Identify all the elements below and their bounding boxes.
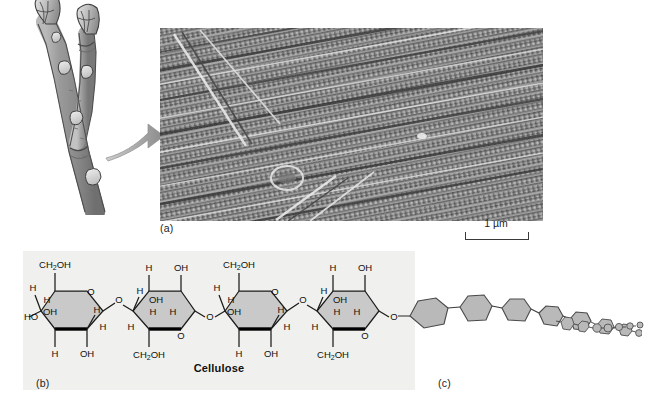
ring-1-c6-label: CH2OH (39, 259, 71, 271)
ring-3-h-bond-ul (219, 295, 225, 311)
ring-2-h-top: H (146, 262, 153, 273)
glycosidic-bond-3a (287, 303, 299, 311)
polymer-chain-tail (556, 305, 648, 341)
leaf-scar-3 (70, 111, 83, 125)
cellulose-caption: Cellulose (23, 362, 415, 374)
micrograph-texture (160, 28, 543, 221)
ring-3-inner-oh: OH (227, 306, 241, 317)
cellulose-micrograph (160, 28, 543, 221)
ring-1-h-right: H (94, 304, 101, 315)
scale-bar: 1 µm (463, 217, 529, 241)
ring-4-inner-h: H (334, 306, 341, 317)
panel-label-b: (b) (36, 377, 49, 389)
ring-2-o-label: O (177, 330, 184, 341)
ring-4-o-label: O (361, 330, 368, 341)
leaf-scar-1 (58, 61, 71, 75)
chain-bond-2 (492, 306, 502, 308)
ring-1-ho: HO (24, 311, 38, 322)
chain-bond-1 (448, 307, 460, 308)
ring-2-h-left: H (137, 285, 144, 296)
ring-4-h-right: H (354, 306, 361, 317)
ring-1-inner-oh: OH (43, 306, 57, 317)
ring-4-body (317, 291, 379, 329)
ring-3-h-right: H (278, 304, 285, 315)
twig-drawing (0, 0, 160, 215)
panel-label-a: (a) (160, 222, 173, 234)
ring-3-h-bottom: H (236, 348, 243, 359)
ring-4-inner-oh: OH (333, 294, 347, 305)
ring-1-inner-h: H (44, 294, 51, 305)
ring-4-oh-top: OH (358, 262, 372, 273)
ring-1-o-label: O (87, 286, 94, 297)
chain-unit-1 (410, 298, 448, 328)
glucose-ring-2: O H OH OH H H H CH2OH H (128, 262, 195, 361)
ring-1-h-right-lower: H (100, 321, 107, 332)
ring-2-c6-label: CH2OH (133, 349, 165, 361)
ring-3-h-ul: H (214, 282, 221, 293)
ring-1-h-ul: H (30, 282, 37, 293)
glycosidic-bond-3b (307, 305, 317, 311)
ring-4-h-left: H (321, 285, 328, 296)
glycosidic-bond-4a (379, 311, 389, 317)
glycosidic-o-4: O (390, 311, 397, 322)
ring-1-h-bond-ul (35, 295, 41, 311)
ring-1-h-bottom: H (52, 348, 59, 359)
ring-2-h-left-lower: H (128, 321, 135, 332)
ring-4-c6-label: CH2OH (317, 349, 349, 361)
leaf-scar-5 (52, 32, 62, 42)
glycosidic-bond-1a (103, 303, 115, 311)
figure-root: (a) 1 µm O CH2OH H HO H (0, 0, 648, 406)
glycosidic-o-2: O (206, 311, 213, 322)
magnify-arrow-icon (104, 118, 166, 164)
ring-3-oh-bottom: OH (264, 348, 278, 359)
glucose-ring-1: O CH2OH H HO H OH H OH H (24, 259, 107, 359)
twig-branch (77, 34, 88, 142)
leaf-scar-4 (86, 169, 102, 186)
ring-3-h-right-lower: H (284, 321, 291, 332)
ring-2-oh-top: OH (174, 262, 188, 273)
glycosidic-bond-2a (195, 311, 205, 317)
chain-tail-units (556, 317, 643, 332)
chain-bond-3 (531, 309, 539, 313)
glycosidic-bond-2b (215, 311, 225, 317)
twig-illustration (0, 0, 160, 215)
ring-4-h-top: H (330, 262, 337, 273)
chain-unit-2 (460, 295, 492, 321)
ring-3-c6-label: CH2OH (223, 259, 255, 271)
glucose-ring-3: O CH2OH H H OH H OH H H (214, 259, 291, 359)
ring-2-body (133, 291, 195, 329)
ring-2-inner-h: H (150, 306, 157, 317)
ring-2-inner-oh: OH (149, 294, 163, 305)
chain-unit-3 (502, 299, 531, 321)
ring-1-oh-bottom: OH (80, 348, 94, 359)
ring-2-h-right: H (170, 306, 177, 317)
scale-bar-label: 1 µm (463, 217, 529, 229)
ring-3-o-label: O (271, 286, 278, 297)
glycosidic-o-1: O (115, 294, 122, 305)
scale-bar-rule (465, 232, 529, 240)
glycosidic-o-3: O (299, 294, 306, 305)
glycosidic-bond-1b (123, 305, 133, 311)
ring-4-h-left-lower: H (312, 321, 319, 332)
glucose-ring-4: O H OH OH H H H CH2OH H (312, 262, 379, 361)
panel-label-c: (c) (438, 377, 451, 389)
arrow-shape (106, 124, 164, 161)
ring-3-inner-h: H (228, 294, 235, 305)
